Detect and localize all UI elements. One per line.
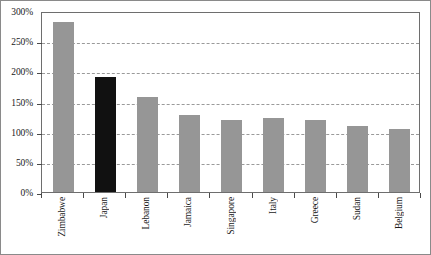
y-axis-tick-mark: [37, 104, 42, 105]
x-axis-tick-label: Japan: [99, 197, 109, 218]
y-axis-tick-mark: [37, 43, 42, 44]
y-axis-tick-label: 50%: [16, 158, 33, 168]
x-axis: ZimbabweJapanLebanonJamaicaSingaporeItal…: [41, 197, 420, 255]
y-axis-tick-label: 150%: [11, 98, 33, 108]
y-axis-tick-label: 200%: [11, 67, 33, 77]
x-axis-tick-label: Sudan: [352, 197, 362, 220]
y-axis-tick-mark: [37, 134, 42, 135]
x-axis-tick-label: Greece: [310, 197, 320, 223]
y-axis-tick-label: 250%: [11, 37, 33, 47]
y-axis-tick-label: 300%: [11, 7, 33, 17]
x-axis-tick-label: Italy: [268, 197, 278, 214]
x-axis-tick-label: Singapore: [226, 197, 236, 235]
y-axis: 0%50%100%150%200%250%300%: [1, 1, 41, 193]
bar: [179, 115, 200, 192]
y-axis-tick-label: 0%: [21, 188, 33, 198]
bar: [137, 97, 158, 192]
bar: [95, 77, 116, 192]
x-axis-tick-label: Zimbabwe: [57, 197, 67, 237]
bar: [305, 120, 326, 192]
plot-area: [42, 13, 419, 192]
bar-chart-figure: 0%50%100%150%200%250%300% ZimbabweJapanL…: [0, 0, 431, 255]
bar: [53, 22, 74, 192]
bars-group: [42, 13, 419, 192]
y-axis-tick-label: 100%: [11, 128, 33, 138]
x-axis-tick-label: Lebanon: [141, 197, 151, 230]
bar: [347, 126, 368, 192]
x-axis-tick-label: Jamaica: [183, 197, 193, 227]
x-axis-tick-mark: [420, 193, 421, 198]
y-axis-tick-mark: [37, 164, 42, 165]
bar: [263, 118, 284, 192]
bar: [389, 129, 410, 192]
bar: [221, 120, 242, 192]
plot-area-frame: [41, 12, 420, 193]
x-axis-tick-label: Belgium: [394, 197, 404, 229]
y-axis-tick-mark: [37, 73, 42, 74]
